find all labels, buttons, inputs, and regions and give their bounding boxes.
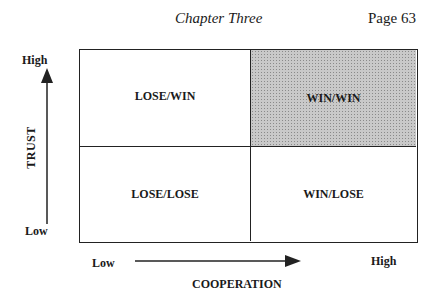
page-number: Page 63	[368, 10, 416, 27]
y-axis-arrow-icon	[40, 68, 54, 226]
x-axis-title: COOPERATION	[192, 277, 282, 292]
quadrant-label: WIN/LOSE	[303, 187, 364, 202]
quadrant-win-win: WIN/WIN	[251, 50, 416, 147]
quadrant-lose-win: LOSE/WIN	[80, 50, 251, 147]
y-axis-low-label: Low	[25, 224, 48, 239]
trust-cooperation-matrix: LOSE/WIN WIN/WIN LOSE/LOSE WIN/LOSE	[79, 49, 418, 243]
quadrant-win-lose: WIN/LOSE	[251, 147, 416, 241]
y-axis-title: TRUST	[24, 126, 39, 169]
x-axis-low-label: Low	[92, 256, 115, 271]
quadrant-label: LOSE/WIN	[135, 89, 196, 104]
quadrant-label: LOSE/LOSE	[131, 187, 198, 202]
quadrant-lose-lose: LOSE/LOSE	[80, 147, 251, 241]
x-axis-high-label: High	[371, 254, 396, 269]
quadrant-label: WIN/WIN	[306, 91, 360, 106]
y-axis-high-label: High	[22, 53, 47, 68]
x-axis-arrow-icon	[135, 255, 301, 267]
chapter-title: Chapter Three	[175, 10, 262, 27]
